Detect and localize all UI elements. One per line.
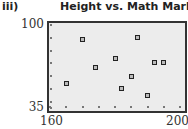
data-point-square-marker	[152, 60, 157, 65]
y-tick-mark	[50, 50, 52, 52]
y-tick-label-min: 35	[18, 100, 44, 114]
data-point-square-marker	[145, 93, 150, 98]
x-tick-mark	[179, 106, 181, 108]
chart-title: Height vs. Math Mark	[60, 0, 188, 13]
figure-label: iii)	[2, 0, 18, 13]
y-tick-mark	[50, 75, 52, 77]
x-tick-mark	[114, 106, 116, 108]
data-point-square-marker	[113, 56, 118, 61]
x-tick-mark	[98, 106, 100, 108]
plot-area	[47, 21, 187, 113]
y-tick-mark	[50, 62, 52, 64]
x-tick-mark	[130, 106, 132, 108]
x-tick-mark	[65, 106, 67, 108]
data-point-square-marker	[119, 86, 124, 91]
y-tick-mark	[50, 37, 52, 39]
data-point-square-marker	[64, 81, 69, 86]
y-tick-mark	[50, 107, 52, 109]
x-tick-mark	[163, 106, 165, 108]
y-tick-mark	[50, 101, 52, 103]
x-tick-mark	[82, 106, 84, 108]
data-point-square-marker	[80, 37, 85, 42]
data-point-square-marker	[93, 65, 98, 70]
x-tick-label-max: 200	[166, 114, 188, 128]
y-tick-mark	[50, 24, 52, 26]
x-tick-label-min: 160	[40, 114, 63, 128]
y-tick-mark	[50, 88, 52, 90]
y-tick-label-max: 100	[18, 17, 44, 31]
data-point-square-marker	[161, 60, 166, 65]
data-point-square-marker	[135, 35, 140, 40]
data-point-square-marker	[129, 74, 134, 79]
x-tick-mark	[147, 106, 149, 108]
